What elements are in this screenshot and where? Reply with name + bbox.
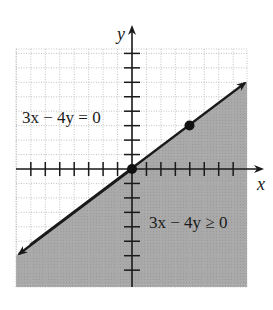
test-point — [185, 121, 195, 131]
origin-point — [127, 164, 137, 174]
equation-label: 3x − 4y = 0 — [22, 108, 101, 127]
inequality-label: 3x − 4y ≥ 0 — [149, 213, 227, 232]
x-axis-label: x — [256, 174, 265, 194]
inequality-graph: y x 3x − 4y = 0 3x − 4y ≥ 0 — [0, 0, 273, 310]
y-axis-label: y — [115, 24, 125, 44]
